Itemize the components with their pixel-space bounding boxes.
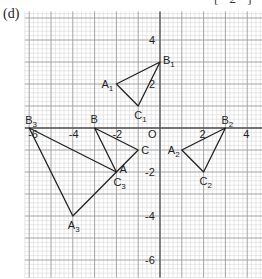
tick-label: 4 (149, 34, 155, 46)
tick-label: -6 (28, 128, 38, 140)
grid-plot: -6-4-22442-2-4-6O ABCA1B1C1A2B2C2A3B3C3 (0, 0, 262, 279)
vertex-label-a2: A2 (168, 144, 180, 159)
vertex-label-c2: C2 (200, 175, 213, 190)
tick-label: 2 (200, 128, 206, 140)
tick-label: 2 (149, 78, 155, 90)
tick-label: -2 (145, 166, 155, 178)
tick-label: -4 (145, 210, 155, 222)
vertex-label-c3: C3 (113, 176, 126, 191)
tick-label: -2 (112, 128, 122, 140)
tick-label: -4 (69, 128, 79, 140)
vertex-label-a: A (119, 163, 127, 175)
origin-label: O (148, 128, 157, 140)
vertex-label-b3: B3 (25, 114, 37, 129)
vertex-label-b: B (91, 113, 98, 125)
vertex-label-c1: C1 (134, 109, 147, 124)
tick-label: 4 (243, 128, 249, 140)
triangles (29, 62, 225, 216)
vertex-label-b1: B1 (163, 54, 175, 69)
vertex-label-c: C (141, 144, 149, 156)
vertex-label-b2: B2 (221, 114, 233, 129)
coordinate-diagram: (d) [ 2 ] -6-4-22442-2-4-6O ABCA1B1C1A2B… (0, 0, 262, 279)
tick-label: -6 (145, 254, 155, 266)
vertex-label-a3: A3 (68, 219, 80, 234)
